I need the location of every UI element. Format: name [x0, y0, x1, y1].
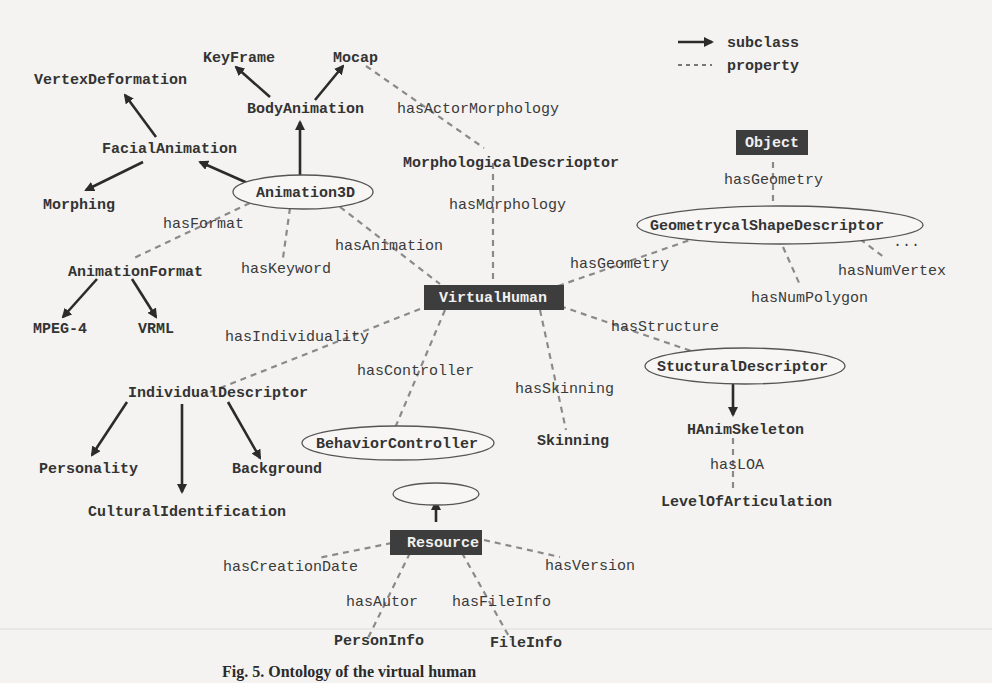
class-morphing: Morphing	[43, 197, 115, 214]
prop-has-skinning: hasSkinning	[515, 381, 614, 398]
background-bleed-text	[0, 628, 992, 630]
prop-has-animation: hasAnimation	[335, 238, 443, 255]
figure-caption: Fig. 5. Ontology of the virtual human	[222, 663, 476, 681]
class-person-info: PersonInfo	[334, 633, 424, 650]
class-personality: Personality	[39, 461, 138, 478]
empty-superclass-ellipse	[393, 483, 479, 505]
class-mocap: Mocap	[333, 50, 378, 67]
class-behavior-controller: BehaviorController	[316, 436, 478, 453]
class-morphological-descriptor: MorphologicalDescrioptor	[403, 155, 619, 172]
ontology-diagram: subclass property	[0, 0, 992, 683]
prop-has-num-polygon: hasNumPolygon	[751, 290, 868, 307]
prop-ellipsis: ...	[893, 234, 920, 251]
legend-property-label: property	[727, 58, 799, 75]
prop-has-loa: hasLOA	[710, 457, 764, 474]
prop-has-geometry-obj: hasGeometry	[724, 172, 823, 189]
prop-has-geometry-vh: hasGeometry	[570, 256, 669, 273]
class-vertex-deformation: VertexDeformation	[34, 72, 187, 89]
prop-has-actor-morphology: hasActorMorphology	[397, 101, 559, 118]
class-resource: Resource	[407, 535, 479, 552]
class-skinning: Skinning	[537, 433, 609, 450]
prop-has-individuality: hasIndividuality	[225, 329, 369, 346]
class-hanim-skeleton: HAnimSkeleton	[687, 422, 804, 439]
prop-has-num-vertex: hasNumVertex	[838, 263, 946, 280]
prop-has-morphology: hasMorphology	[449, 197, 566, 214]
prop-has-creation-date: hasCreationDate	[223, 559, 358, 576]
prop-has-version: hasVersion	[545, 558, 635, 575]
prop-has-file-info: hasFileInfo	[452, 594, 551, 611]
class-facial-animation: FacialAnimation	[102, 141, 237, 158]
prop-has-format: hasFormat	[163, 216, 244, 233]
prop-has-controller: hasController	[357, 363, 474, 380]
class-file-info: FileInfo	[490, 635, 562, 652]
class-keyframe: KeyFrame	[203, 50, 275, 67]
class-body-animation: BodyAnimation	[247, 101, 364, 118]
prop-has-autor: hasAutor	[346, 594, 418, 611]
class-structural-descriptor: StucturalDescriptor	[657, 359, 828, 376]
class-cultural-identification: CulturalIdentification	[88, 504, 286, 521]
prop-has-keyword: hasKeyword	[241, 261, 331, 278]
class-geometrical-shape-descriptor: GeometrycalShapeDescriptor	[650, 218, 884, 235]
class-animation-format: AnimationFormat	[68, 264, 203, 281]
class-vrml: VRML	[138, 321, 174, 338]
class-background: Background	[232, 461, 322, 478]
class-individual-descriptor: IndividualDescriptor	[128, 385, 308, 402]
class-animation3d: Animation3D	[256, 185, 355, 202]
class-mpeg4: MPEG-4	[33, 321, 87, 338]
legend-subclass-label: subclass	[727, 35, 799, 52]
prop-has-structure: hasStructure	[611, 319, 719, 336]
class-object: Object	[745, 135, 799, 152]
class-level-of-articulation: LevelOfArticulation	[661, 494, 832, 511]
legend: subclass property	[678, 35, 799, 75]
class-virtual-human: VirtualHuman	[439, 290, 547, 307]
